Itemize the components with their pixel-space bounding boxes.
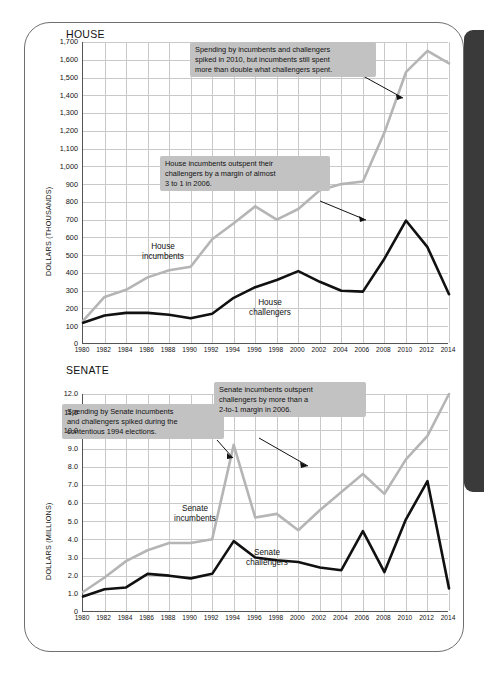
x-axis-tick-label: 1984 [113, 347, 137, 354]
y-axis-tick-label: 8.0 [32, 463, 78, 470]
x-axis-tick-label: 1988 [156, 347, 180, 354]
x-axis-tick-label: 1980 [70, 347, 94, 354]
y-axis-tick-label: 900 [32, 181, 78, 188]
y-axis-tick-label: 10.0 [32, 427, 78, 434]
x-axis-tick-label: 1998 [264, 347, 288, 354]
gridline-vertical [449, 394, 450, 611]
house-annotation-2010: Spending by incumbents and challengers s… [190, 42, 376, 77]
x-axis-tick-label: 1996 [242, 347, 266, 354]
x-axis-tick-label: 1994 [221, 347, 245, 354]
x-axis-tick-label: 2014 [436, 615, 460, 622]
x-axis-tick-label: 1982 [92, 615, 116, 622]
gridline-vertical [449, 42, 450, 343]
y-axis-tick-label: 700 [32, 216, 78, 223]
x-axis-tick-label: 1994 [221, 615, 245, 622]
side-tab [464, 30, 484, 492]
senate-chart: SENATE DOLLARS (MILLIONS) Spending by Se… [32, 362, 456, 650]
x-axis-tick-label: 2012 [414, 615, 438, 622]
x-axis-tick-label: 1984 [113, 615, 137, 622]
y-axis-tick-label: 1.0 [32, 590, 78, 597]
series-line-senate-challengers [83, 481, 449, 596]
x-axis-tick-label: 2014 [436, 347, 460, 354]
y-axis-tick-label: 7.0 [32, 481, 78, 488]
x-axis-tick-label: 2010 [393, 347, 417, 354]
x-axis-tick-label: 2008 [371, 615, 395, 622]
x-axis-tick-label: 1982 [92, 347, 116, 354]
y-axis-tick-label: 1,300 [32, 109, 78, 116]
y-axis-tick-label: 3.0 [32, 554, 78, 561]
y-axis-tick-label: 6.0 [32, 499, 78, 506]
x-axis-tick-label: 2010 [393, 615, 417, 622]
house-annotation-2006: House incumbents outspent their challeng… [160, 156, 330, 191]
x-axis-tick-label: 1986 [135, 615, 159, 622]
y-axis-tick-label: 500 [32, 252, 78, 259]
y-axis-tick-label: 1,200 [32, 127, 78, 134]
y-axis-tick-label: 1,700 [32, 38, 78, 45]
y-axis-tick-label: 2.0 [32, 572, 78, 579]
x-axis-tick-label: 1988 [156, 615, 180, 622]
x-axis-tick-label: 1980 [70, 615, 94, 622]
y-axis-tick-label: 9.0 [32, 445, 78, 452]
y-axis-tick-label: 1,000 [32, 163, 78, 170]
x-axis-tick-label: 2006 [350, 615, 374, 622]
y-axis-tick-label: 1,600 [32, 56, 78, 63]
y-axis-tick-label: 4.0 [32, 536, 78, 543]
x-axis-tick-label: 1996 [242, 615, 266, 622]
x-axis-tick-label: 1986 [135, 347, 159, 354]
house-incumbents-label: House incumbents [132, 242, 194, 261]
y-axis-tick-label: 600 [32, 234, 78, 241]
x-axis-tick-label: 2012 [414, 347, 438, 354]
y-axis-tick-label: 1,100 [32, 145, 78, 152]
senate-incumbents-label: Senate incumbents [162, 504, 228, 523]
y-axis-tick-label: 11.0 [32, 409, 78, 416]
house-challengers-label: House challengers [239, 298, 301, 317]
x-axis-tick-label: 2002 [307, 347, 331, 354]
y-axis-tick-label: 300 [32, 287, 78, 294]
x-axis-tick-label: 1998 [264, 615, 288, 622]
page-root: HOUSE DOLLARS (THOUSANDS) Spending by in… [0, 0, 486, 674]
y-axis-tick-label: 12.0 [32, 390, 78, 397]
x-axis-tick-label: 2000 [285, 347, 309, 354]
x-axis-tick-label: 2004 [328, 615, 352, 622]
y-axis-tick-label: 400 [32, 269, 78, 276]
senate-annotation-1994: Spending by Senate incumbents and challe… [62, 404, 224, 439]
y-axis-tick-label: 1,400 [32, 92, 78, 99]
y-axis-tick-label: 5.0 [32, 518, 78, 525]
y-axis-tick-label: 800 [32, 198, 78, 205]
x-axis-tick-label: 2004 [328, 347, 352, 354]
senate-annotation-2006: Senate incumbents outspent challengers b… [214, 382, 366, 417]
y-axis-tick-label: 100 [32, 323, 78, 330]
x-axis-tick-label: 1990 [178, 615, 202, 622]
x-axis-tick-label: 2002 [307, 615, 331, 622]
x-axis-tick-label: 2008 [371, 347, 395, 354]
x-axis-tick-label: 1992 [199, 347, 223, 354]
x-axis-tick-label: 2000 [285, 615, 309, 622]
y-axis-tick-label: 1,500 [32, 74, 78, 81]
x-axis-tick-label: 1992 [199, 615, 223, 622]
senate-challengers-label: Senate challengers [232, 548, 302, 567]
senate-chart-title: SENATE [66, 364, 109, 376]
x-axis-tick-label: 2006 [350, 347, 374, 354]
y-axis-tick-label: 200 [32, 305, 78, 312]
house-chart: HOUSE DOLLARS (THOUSANDS) Spending by in… [32, 26, 456, 362]
x-axis-tick-label: 1990 [178, 347, 202, 354]
